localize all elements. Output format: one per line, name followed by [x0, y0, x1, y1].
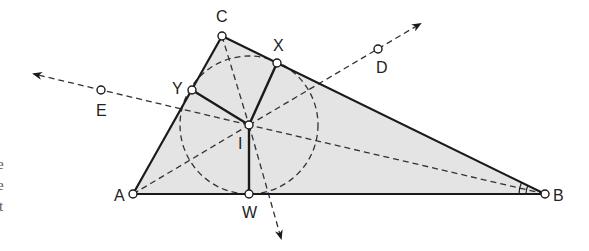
margin-fragment-3: t: [0, 198, 4, 214]
label-a: A: [114, 187, 125, 204]
incircle-diagram: A B C I W X Y D E e e t: [0, 0, 589, 251]
margin-fragment-2: e: [0, 177, 4, 193]
point-e: [97, 86, 105, 94]
point-d: [374, 45, 382, 53]
label-c: C: [216, 8, 228, 25]
label-y: Y: [172, 80, 183, 97]
label-x: X: [273, 37, 284, 54]
point-y: [188, 86, 196, 94]
point-x: [273, 59, 281, 67]
point-b: [541, 190, 549, 198]
label-e: E: [96, 102, 107, 119]
triangle-abc: [133, 36, 545, 194]
point-w: [245, 190, 253, 198]
point-i: [245, 121, 253, 129]
label-d: D: [376, 59, 388, 76]
point-c: [218, 32, 226, 40]
label-i: I: [238, 135, 242, 152]
label-w: W: [242, 204, 258, 221]
margin-fragment-1: e: [0, 156, 4, 172]
label-b: B: [553, 187, 564, 204]
point-a: [129, 190, 137, 198]
